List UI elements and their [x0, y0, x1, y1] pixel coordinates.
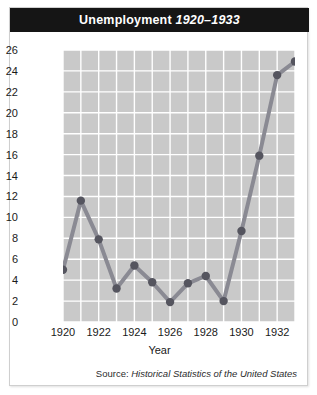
y-axis-tick-label: 24	[0, 65, 18, 77]
unemployment-line	[63, 62, 295, 303]
data-point	[273, 71, 281, 79]
source-prefix: Source:	[96, 368, 129, 379]
x-axis-tick-label: 1932	[254, 326, 300, 338]
y-axis-tick-label: 22	[0, 86, 18, 98]
plot-wrap	[63, 50, 295, 322]
data-point-markers	[63, 57, 295, 306]
line-chart-svg	[63, 50, 295, 322]
y-axis-tick-label: 10	[0, 211, 18, 223]
chart-card: Unemployment 1920–1933 Percent of Work F…	[9, 7, 308, 386]
data-point	[202, 272, 210, 280]
data-point	[77, 196, 85, 204]
data-point	[94, 235, 102, 243]
vertical-gridlines	[63, 50, 295, 322]
y-axis-tick-label: 12	[0, 190, 18, 202]
y-axis-tick-label: 2	[0, 295, 18, 307]
title-main-text: Unemployment	[79, 13, 172, 27]
y-axis-tick-label: 4	[0, 274, 18, 286]
data-point	[112, 284, 120, 292]
page-title: Unemployment 1920–1933	[79, 13, 240, 27]
title-year-range: 1920–1933	[176, 13, 240, 27]
source-title: Historical Statistics of the United Stat…	[131, 368, 297, 379]
horizontal-gridlines	[63, 50, 295, 322]
y-axis-tick-label: 18	[0, 128, 18, 140]
source-credit: Source: Historical Statistics of the Uni…	[10, 368, 297, 379]
y-axis-tick-label: 8	[0, 232, 18, 244]
data-point	[63, 265, 67, 273]
y-axis-tick-label: 0	[0, 316, 18, 328]
y-axis-tick-label: 16	[0, 149, 18, 161]
chart-title-bar: Unemployment 1920–1933	[10, 8, 309, 32]
data-point	[148, 278, 156, 286]
data-point	[219, 297, 227, 305]
y-axis-tick-label: 6	[0, 253, 18, 265]
data-point	[255, 151, 263, 159]
y-axis-tick-label: 20	[0, 107, 18, 119]
data-point	[184, 279, 192, 287]
data-point	[237, 227, 245, 235]
data-point	[130, 261, 138, 269]
y-axis-tick-label: 26	[0, 44, 18, 56]
data-point	[166, 298, 174, 306]
y-axis-tick-label: 14	[0, 170, 18, 182]
x-axis-label: Year	[10, 344, 309, 356]
